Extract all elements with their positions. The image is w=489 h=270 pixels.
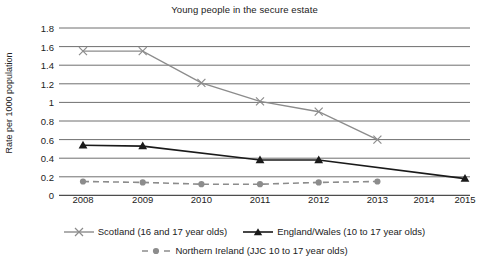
chart-container: Young people in the secure estate Rate p…	[0, 0, 489, 270]
legend-row-primary: Scotland (16 and 17 year olds) England/W…	[0, 222, 489, 241]
x-tick-2012: 2012	[297, 194, 341, 205]
legend-row-secondary: Northern Ireland (JJC 10 to 17 year olds…	[0, 241, 489, 260]
england-wales-markers	[79, 141, 470, 182]
series-england-wales	[79, 141, 470, 182]
x-tick-2013: 2013	[355, 194, 399, 205]
england-wales-triangle-marker-icon	[243, 227, 273, 237]
legend-item-northern-ireland[interactable]: Northern Ireland (JJC 10 to 17 year olds…	[141, 245, 347, 256]
x-tick-2010: 2010	[179, 194, 223, 205]
legend-label-england-wales: England/Wales (10 to 17 year olds)	[277, 226, 425, 237]
chart-legend: Scotland (16 and 17 year olds) England/W…	[0, 222, 489, 260]
scotland-x-marker-icon	[64, 227, 94, 237]
legend-item-scotland[interactable]: Scotland (16 and 17 year olds)	[64, 226, 227, 237]
x-tick-2014: 2014	[402, 194, 446, 205]
series-northern-ireland	[80, 178, 381, 187]
northern-ireland-circle-marker-icon	[141, 246, 171, 256]
legend-label-scotland: Scotland (16 and 17 year olds)	[98, 226, 227, 237]
x-tick-2008: 2008	[61, 194, 105, 205]
legend-label-northern-ireland: Northern Ireland (JJC 10 to 17 year olds…	[175, 245, 347, 256]
x-tick-2015: 2015	[443, 194, 487, 205]
x-tick-2009: 2009	[121, 194, 165, 205]
x-tick-2011: 2011	[238, 194, 282, 205]
gridlines	[59, 28, 470, 195]
legend-item-england-wales[interactable]: England/Wales (10 to 17 year olds)	[243, 226, 425, 237]
scotland-markers	[79, 47, 381, 144]
series-scotland	[79, 47, 381, 144]
